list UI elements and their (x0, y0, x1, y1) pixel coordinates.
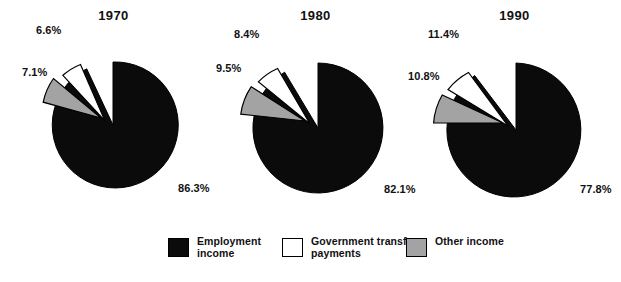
pie-label-employment-1970: 86.3% (178, 182, 210, 194)
pie-panel-1980: 1980 8.4% 9.5% 82.1% (212, 0, 419, 230)
legend-item-other: Other income (406, 236, 504, 257)
pie-label-other-1980: 9.5% (216, 62, 241, 74)
pie-label-employment-1990: 77.8% (580, 183, 612, 195)
pie-label-other-1990: 10.8% (408, 70, 440, 82)
pie-chart-figure: 1970 6.6% 7.1% 86.3% 1980 8.4% 9.5% 82.1… (0, 0, 621, 282)
legend-label-employment-line2: income (197, 248, 261, 260)
legend-label-government-line2: payments (311, 248, 417, 260)
legend-item-employment: Employment income (168, 236, 261, 259)
employment-swatch-icon (168, 238, 189, 257)
legend-label-employment-line1: Employment (197, 236, 261, 248)
pie-panel-1990: 1990 11.4% 10.8% 77.8% (408, 0, 621, 230)
legend-label-government-line1: Government transfer (311, 236, 417, 248)
legend-item-government: Government transfer payments (282, 236, 417, 259)
pie-label-government-1980: 8.4% (234, 28, 259, 40)
legend-label-government: Government transfer payments (311, 236, 417, 259)
legend-label-other-line1: Other income (435, 236, 504, 248)
government-swatch-icon (282, 238, 303, 257)
legend-label-employment: Employment income (197, 236, 261, 259)
legend-label-other: Other income (435, 236, 504, 248)
chart-legend: Employment income Government transfer pa… (0, 236, 621, 282)
pie-panel-1970: 1970 6.6% 7.1% 86.3% (10, 0, 217, 230)
pie-label-government-1990: 11.4% (428, 28, 459, 40)
pie-label-government-1970: 6.6% (36, 24, 61, 36)
other-swatch-icon (406, 238, 427, 257)
pie-label-other-1970: 7.1% (22, 66, 47, 78)
